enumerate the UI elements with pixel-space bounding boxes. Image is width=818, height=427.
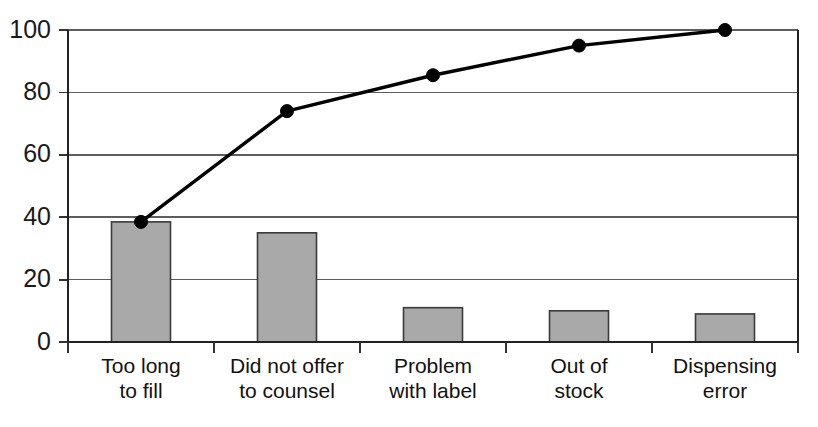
cumulative-marker <box>427 69 440 82</box>
cumulative-marker <box>573 39 586 52</box>
y-tick-label: 100 <box>9 15 51 43</box>
category-label-line: with label <box>388 379 477 402</box>
category-label-line: to counsel <box>239 379 335 402</box>
bar <box>404 308 463 342</box>
cumulative-marker <box>719 24 732 37</box>
pareto-chart-canvas: 020406080100 Too longto fillDid not offe… <box>0 0 818 427</box>
cumulative-marker <box>281 105 294 118</box>
y-tick-label: 40 <box>23 202 51 230</box>
category-label-line: Too long <box>101 354 180 377</box>
bar <box>696 314 755 342</box>
category-label-line: Dispensing <box>673 354 777 377</box>
cumulative-marker <box>135 215 148 228</box>
bar <box>258 233 317 342</box>
category-label-line: stock <box>554 379 604 402</box>
category-label-line: error <box>703 379 747 402</box>
category-label-line: to fill <box>119 379 162 402</box>
bar <box>550 311 609 342</box>
category-label-line: Out of <box>550 354 607 377</box>
category-label-line: Did not offer <box>230 354 344 377</box>
category-label-line: Problem <box>394 354 472 377</box>
y-tick-label: 80 <box>23 77 51 105</box>
bar <box>112 222 171 342</box>
y-tick-label: 20 <box>23 264 51 292</box>
pareto-chart: 020406080100 Too longto fillDid not offe… <box>0 0 818 427</box>
y-tick-label: 0 <box>37 327 51 355</box>
y-tick-label: 60 <box>23 139 51 167</box>
